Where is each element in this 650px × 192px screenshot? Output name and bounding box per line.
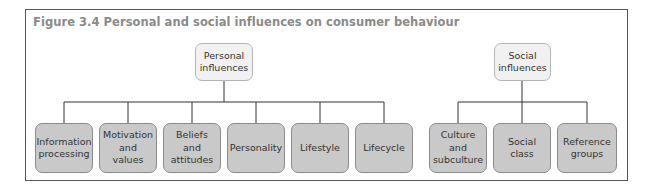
node-social-influences: Social influences <box>494 43 551 81</box>
node-label: Social class <box>508 136 536 161</box>
node-lifestyle: Lifestyle <box>291 123 349 173</box>
node-lifecycle: Lifecycle <box>355 123 413 173</box>
node-label: Information processing <box>37 136 92 161</box>
node-label: Lifestyle <box>300 142 340 155</box>
node-label: Culture and subculture <box>433 129 483 167</box>
node-information-processing: Information processing <box>35 123 93 173</box>
node-reference-groups: Reference groups <box>557 123 617 173</box>
node-personality: Personality <box>227 123 285 173</box>
node-label: Lifecycle <box>363 142 405 155</box>
node-label: Personal influences <box>200 50 249 75</box>
node-label: Reference groups <box>563 136 611 161</box>
node-motivation-and-values: Motivation and values <box>99 123 157 173</box>
node-culture-and-subculture: Culture and subculture <box>429 123 487 173</box>
node-label: Beliefs and attitudes <box>171 129 213 167</box>
node-label: Social influences <box>498 50 547 75</box>
node-personal-influences: Personal influences <box>195 43 253 81</box>
node-label: Motivation and values <box>103 129 153 167</box>
node-social-class: Social class <box>493 123 551 173</box>
node-label: Personality <box>230 142 282 155</box>
node-beliefs-and-attitudes: Beliefs and attitudes <box>163 123 221 173</box>
